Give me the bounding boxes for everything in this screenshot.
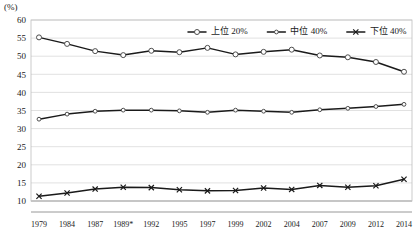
series-cross <box>36 177 406 199</box>
data-point-marker <box>402 102 406 106</box>
data-point-marker <box>233 52 238 57</box>
y-tick-label: 15 <box>17 178 27 188</box>
x-tick-label: 1987 <box>87 220 103 229</box>
y-axis-tick-labels: 1015202530354045505560 <box>17 15 27 206</box>
legend-label: 中位 40% <box>290 25 327 36</box>
data-point-marker <box>65 41 70 46</box>
data-point-marker <box>318 108 322 112</box>
data-series <box>36 35 406 199</box>
x-tick-label: 1992 <box>143 220 159 229</box>
y-tick-label: 35 <box>17 106 27 116</box>
x-axis-tick-labels: 1979198419871989*19921995199719992002200… <box>31 220 412 229</box>
x-tick-label: 1989* <box>113 220 133 229</box>
y-tick-label: 55 <box>17 33 27 43</box>
y-tick-label: 20 <box>17 160 27 170</box>
legend-marker-icon <box>275 30 279 34</box>
legend-item[interactable]: 中位 40% <box>267 25 327 36</box>
data-point-marker <box>346 106 350 110</box>
x-tick-label: 1979 <box>31 220 47 229</box>
x-tick-label: 1997 <box>199 220 215 229</box>
data-point-marker <box>37 35 42 40</box>
y-tick-label: 30 <box>17 124 27 134</box>
x-tick-label: 2009 <box>340 220 356 229</box>
data-point-marker <box>289 47 294 52</box>
data-point-marker <box>234 108 238 112</box>
data-point-marker <box>205 45 210 50</box>
chart-canvas: 1015202530354045505560 1979198419871989*… <box>0 0 418 234</box>
legend-marker-icon <box>195 30 200 35</box>
legend-label: 下位 40% <box>370 25 407 36</box>
y-tick-label: 10 <box>17 196 27 206</box>
data-point-marker <box>262 109 266 113</box>
data-point-marker <box>149 48 154 53</box>
line-chart: (%) 1015202530354045505560 1979198419871… <box>0 0 418 234</box>
legend-item[interactable]: 上位 20% <box>188 25 248 36</box>
x-tick-label: 1995 <box>171 220 187 229</box>
data-point-marker <box>290 110 294 114</box>
data-point-marker <box>373 59 378 64</box>
data-point-marker <box>65 112 69 116</box>
data-point-marker <box>37 117 41 121</box>
y-tick-label: 60 <box>17 15 27 25</box>
y-tick-label: 45 <box>17 70 27 80</box>
data-point-marker <box>402 69 407 74</box>
series-open-circle <box>37 35 407 74</box>
legend-label: 上位 20% <box>211 25 248 36</box>
series-small-open-circle <box>37 102 406 121</box>
data-point-marker <box>121 53 126 58</box>
data-point-marker <box>177 50 182 55</box>
y-tick-label: 25 <box>17 142 27 152</box>
data-point-marker <box>374 105 378 109</box>
data-point-marker <box>121 108 125 112</box>
data-point-marker <box>206 110 210 114</box>
legend-item[interactable]: 下位 40% <box>347 25 407 36</box>
x-tick-label: 2004 <box>284 220 300 229</box>
y-tick-label: 40 <box>17 88 27 98</box>
data-point-marker <box>261 49 266 54</box>
series-line <box>39 37 404 71</box>
data-point-marker <box>177 109 181 113</box>
data-point-marker <box>93 109 97 113</box>
data-point-marker <box>149 108 153 112</box>
x-tick-label: 2014 <box>396 220 412 229</box>
data-point-marker <box>93 49 98 54</box>
x-tick-label: 1999 <box>228 220 244 229</box>
data-point-marker <box>345 55 350 60</box>
x-tick-label: 1984 <box>59 220 75 229</box>
chart-legend: 上位 20%中位 40%下位 40% <box>188 25 407 36</box>
x-tick-label: 2007 <box>312 220 328 229</box>
y-tick-label: 50 <box>17 51 27 61</box>
x-tick-label: 2002 <box>256 220 272 229</box>
x-tick-label: 2012 <box>368 220 384 229</box>
data-point-marker <box>317 53 322 58</box>
